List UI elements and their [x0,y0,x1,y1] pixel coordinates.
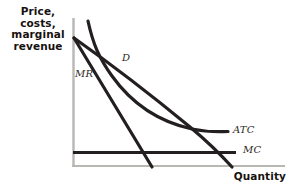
atc-curve [88,21,228,132]
demand-curve-label: D [122,52,130,63]
atc-curve-label: ATC [233,124,255,135]
y-axis-title: Price, costs, marginal revenue [4,6,72,52]
mr-curve [74,38,152,167]
mc-curve-label: MC [243,144,261,155]
demand-curve [74,38,232,167]
economics-monopoly-chart: Price, costs, marginal revenue Quantity … [0,0,294,190]
mr-curve-label: MR [75,68,93,79]
x-axis-title: Quantity [200,171,286,183]
